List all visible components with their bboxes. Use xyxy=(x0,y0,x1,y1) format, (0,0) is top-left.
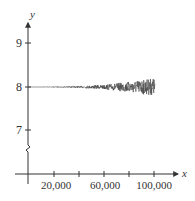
y-tick-label-8: 8 xyxy=(16,80,22,94)
chart: y 9 8 7 x 20,000 60,000 100,000 xyxy=(0,0,195,201)
x-tick-label-60000: 60,000 xyxy=(90,179,121,191)
x-axis: x xyxy=(15,167,187,179)
x-tick-label-20000: 20,000 xyxy=(41,179,72,191)
y-tick-label-7: 7 xyxy=(16,123,22,137)
x-tick-label-100000: 100,000 xyxy=(136,179,172,191)
y-ticks: 9 8 7 xyxy=(16,36,31,137)
y-axis-label: y xyxy=(29,8,35,20)
axis-break-icon xyxy=(26,145,30,152)
y-axis: y xyxy=(26,8,35,184)
y-tick-label-9: 9 xyxy=(16,36,22,50)
data-series-line xyxy=(28,79,155,95)
x-axis-label: x xyxy=(181,167,187,179)
